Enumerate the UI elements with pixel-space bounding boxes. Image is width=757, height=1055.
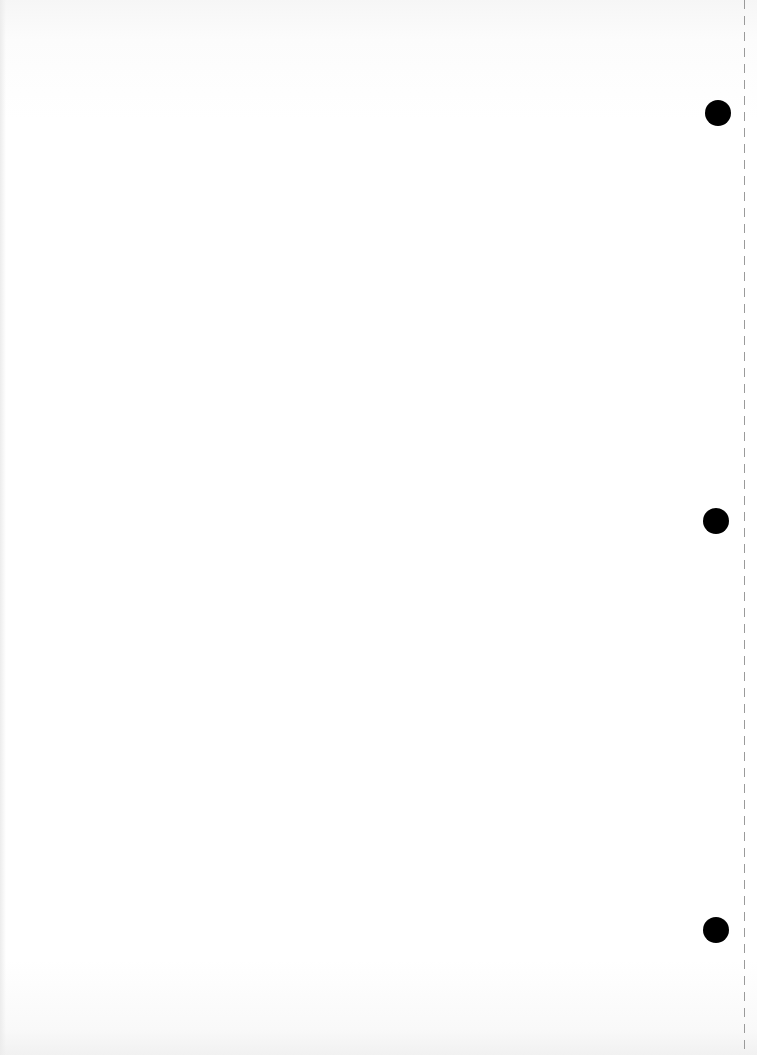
page-edge-shadow: [0, 0, 6, 1055]
punch-hole-top: [705, 100, 731, 126]
punch-hole-middle: [703, 508, 729, 534]
faint-show-through-text: [378, 224, 518, 244]
perforation-line: [744, 0, 745, 1055]
document-page: [0, 0, 757, 1055]
punch-hole-bottom: [703, 917, 729, 943]
